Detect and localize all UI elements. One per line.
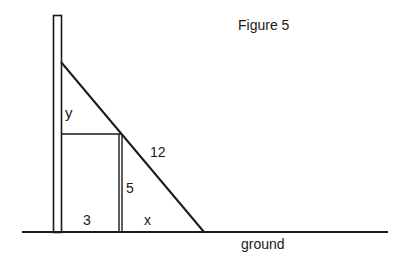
label-y: y [65,105,73,120]
diagram-canvas [0,0,408,265]
label-ground: ground [241,237,285,251]
label-hypotenuse: 12 [150,145,166,159]
wall-pole [54,16,62,233]
label-base-right: x [144,213,151,227]
label-base-left: 3 [83,213,91,227]
ladder-line [61,62,204,232]
label-post-height: 5 [126,181,134,195]
figure-title: Figure 5 [238,18,289,32]
